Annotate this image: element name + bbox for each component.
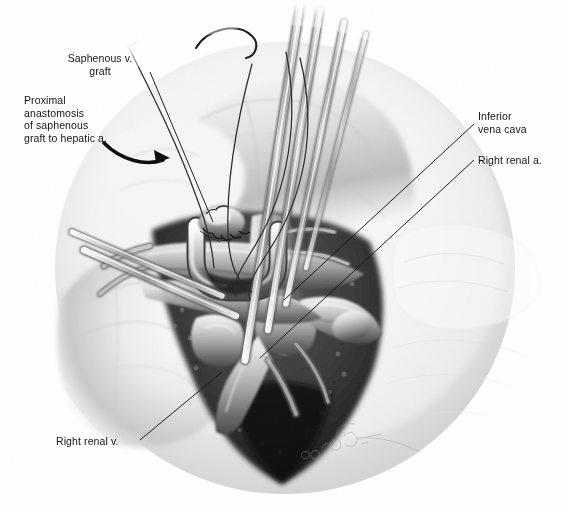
label-right-renal-artery: Right renal a. — [478, 154, 564, 167]
label-right-renal-vein: Right renal v. — [56, 435, 136, 448]
label-saphenous-vein-graft: Saphenous v. graft — [48, 52, 152, 77]
label-inferior-vena-cava: Inferior vena cava — [478, 110, 558, 135]
label-proximal-anastomosis: Proximal anastomosis of saphenous graft … — [24, 94, 142, 144]
surgical-illustration-figure: Saphenous v. graft Proximal anastomosis … — [0, 0, 567, 513]
